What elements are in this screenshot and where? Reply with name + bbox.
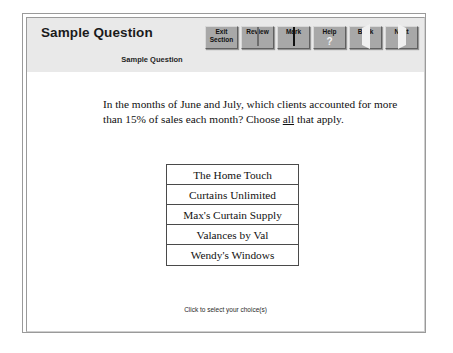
question-body: In the months of June and July, which cl… (27, 72, 424, 331)
exit-section-label-line2: Section (210, 36, 233, 44)
answer-choice-option[interactable]: Curtains Unlimited (167, 185, 298, 205)
mark-button[interactable]: Mark (277, 26, 310, 49)
question-stem-part1: In the months of June and July, which cl… (103, 98, 397, 125)
exit-section-button[interactable]: Exit Section (205, 26, 238, 49)
help-label: Help (322, 28, 336, 36)
question-stem: In the months of June and July, which cl… (103, 97, 403, 126)
help-button[interactable]: Help ? (313, 26, 346, 49)
selection-hint: Click to select your choice(s) (27, 306, 424, 313)
exam-window: Sample Question Sample Question Exit Sec… (22, 13, 426, 333)
question-stem-part2: that apply. (294, 113, 344, 125)
answer-choice-option[interactable]: Max's Curtain Supply (167, 205, 298, 225)
answer-choice-option[interactable]: The Home Touch (167, 165, 298, 185)
answer-choice-option[interactable]: Wendy's Windows (167, 245, 298, 265)
answer-choice-option[interactable]: Valances by Val (167, 225, 298, 245)
header-band: Sample Question Sample Question Exit Sec… (27, 18, 424, 72)
exit-section-label-line1: Exit (216, 28, 228, 36)
review-button[interactable]: Review (241, 26, 274, 49)
back-button[interactable]: Back (349, 26, 382, 49)
next-button[interactable]: Next (385, 26, 418, 49)
question-stem-emphasis: all (283, 113, 294, 125)
exam-window-inner: Sample Question Sample Question Exit Sec… (26, 17, 425, 332)
section-subtitle: Sample Question (27, 55, 277, 64)
question-mark-icon: ? (326, 37, 332, 46)
page-title: Sample Question (41, 25, 153, 40)
toolbar: Exit Section Review Mark Help ? Back (205, 26, 418, 49)
answer-choices-list: The Home Touch Curtains Unlimited Max's … (166, 164, 299, 266)
